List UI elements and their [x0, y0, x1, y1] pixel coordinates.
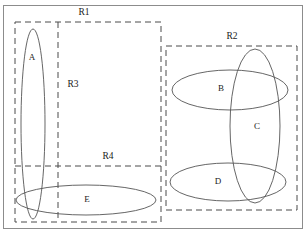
diagram-canvas: R1 R2 R3 R4 A B C D E [0, 0, 307, 236]
region-label-r3: R3 [67, 79, 78, 89]
set-label-b: B [218, 83, 224, 93]
region-label-r4: R4 [102, 151, 113, 161]
set-label-e: E [84, 194, 90, 204]
region-label-r1: R1 [78, 7, 89, 17]
set-label-c: C [254, 121, 260, 131]
venn-region-diagram: R1 R2 R3 R4 A B C D E [0, 0, 307, 236]
set-label-a: A [29, 52, 36, 62]
set-label-d: D [215, 176, 222, 186]
region-label-r2: R2 [226, 31, 237, 41]
